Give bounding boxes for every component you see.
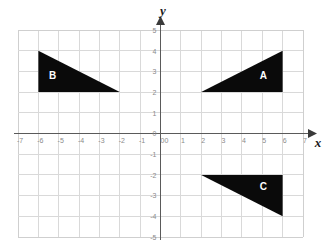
shape-label-a: A (260, 70, 267, 81)
x-tick-label: -1 (139, 137, 145, 144)
y-tick-label: 5 (153, 27, 157, 34)
x-tick-label: 1 (181, 137, 185, 144)
y-tick-label: 3 (153, 68, 157, 75)
x-tick-label: 4 (242, 137, 246, 144)
x-tick-label: 6 (283, 137, 287, 144)
x-tick-label: -6 (37, 137, 43, 144)
x-tick-label: 3 (222, 137, 226, 144)
y-tick-label: 2 (153, 89, 157, 96)
x-axis-tick-labels: -7-6-5-4-3-2-1012345670 (17, 137, 307, 144)
origin-label: 0 (165, 137, 169, 144)
shape-label-c: C (260, 181, 267, 192)
x-tick-label: -2 (119, 137, 125, 144)
figure-background (0, 0, 334, 249)
x-tick-label: 7 (303, 137, 307, 144)
y-tick-label: 1 (153, 110, 157, 117)
y-tick-label: 4 (153, 48, 157, 55)
x-tick-label: -3 (98, 137, 104, 144)
coordinate-plane-svg: -7-6-5-4-3-2-1012345670 543210-1-2-3-4-5… (0, 0, 334, 249)
coordinate-plane-figure: -7-6-5-4-3-2-1012345670 543210-1-2-3-4-5… (0, 0, 334, 249)
y-tick-label: -1 (150, 151, 156, 158)
y-tick-label: -4 (150, 213, 156, 220)
y-tick-label: -5 (150, 234, 156, 241)
x-tick-label: 5 (262, 137, 266, 144)
x-tick-label: -4 (78, 137, 84, 144)
x-tick-label: -7 (17, 137, 23, 144)
shape-label-b: B (49, 70, 56, 81)
y-tick-label: -3 (150, 192, 156, 199)
x-tick-label: -5 (58, 137, 64, 144)
x-axis-label: x (314, 135, 322, 150)
y-tick-label: -2 (150, 172, 156, 179)
y-axis-label: y (158, 3, 166, 18)
x-tick-label: 2 (201, 137, 205, 144)
y-tick-label: 0 (153, 130, 157, 137)
